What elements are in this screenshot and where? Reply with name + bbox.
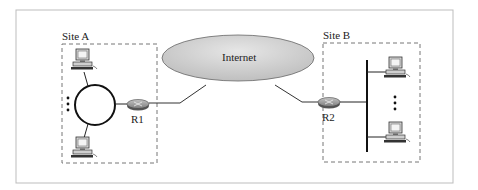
- router-r1-label: R1: [131, 113, 144, 125]
- router-r1-icon: [127, 100, 149, 111]
- router-r2-icon: [318, 98, 340, 109]
- internet-label: Internet: [222, 51, 256, 63]
- ring-network: [75, 85, 115, 125]
- site-b-label: Site B: [323, 29, 350, 41]
- site-a-label: Site A: [62, 30, 89, 42]
- router-r2-label: R2: [322, 111, 335, 123]
- network-diagram: [0, 0, 478, 190]
